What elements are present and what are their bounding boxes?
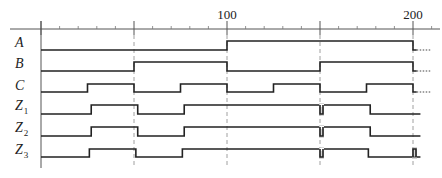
signal-label: Z3 — [15, 142, 29, 160]
timing-diagram: 100200 ABCZ1Z2Z3 — [0, 0, 442, 178]
signal-labels: ABCZ1Z2Z3 — [14, 35, 29, 160]
time-axis: 100200 — [10, 7, 440, 168]
waveform-b — [41, 62, 417, 71]
signal-label: Z1 — [15, 98, 28, 116]
dashed-guides — [134, 35, 413, 168]
signal-label: B — [15, 56, 24, 71]
waveforms — [41, 41, 431, 159]
waveform-z1 — [41, 105, 420, 114]
signal-label-subscript: 2 — [24, 128, 29, 138]
axis-tick-label: 100 — [217, 7, 237, 22]
axis-tick-label: 200 — [403, 7, 423, 22]
signal-label: C — [15, 78, 25, 93]
waveform-z2 — [41, 127, 420, 136]
signal-label: Z2 — [15, 120, 28, 138]
waveform-z3 — [41, 149, 420, 157]
signal-label-subscript: 1 — [24, 106, 29, 116]
signal-label: A — [14, 35, 24, 50]
waveform-a — [41, 41, 417, 50]
waveform-c — [41, 84, 417, 92]
signal-label-subscript: 3 — [24, 150, 29, 160]
